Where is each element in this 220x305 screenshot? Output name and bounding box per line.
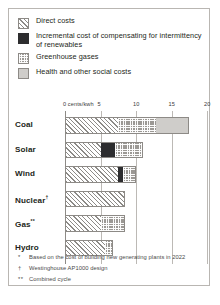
bar-track	[65, 191, 125, 208]
bar-row: Nuclear†	[9, 187, 211, 212]
footnote-marker: *	[18, 253, 29, 261]
footnote-row: ** Combined cycle	[18, 275, 204, 283]
footnote-text: Combined cycle	[29, 275, 71, 283]
bar-track	[65, 142, 143, 159]
legend-label-health-social-costs: Health and other social costs	[36, 68, 131, 77]
bar-category-label: Coal	[15, 120, 33, 129]
bar-segment	[65, 191, 125, 208]
bar-row: Solar	[9, 138, 211, 163]
bar-segment	[65, 166, 118, 183]
bar-segment	[101, 215, 126, 232]
bar-segment	[115, 142, 143, 159]
legend-swatch-greenhouse-gases-icon	[18, 53, 29, 64]
legend-swatch-intermittency-icon	[18, 33, 29, 44]
footnote-marker: **	[18, 275, 29, 283]
x-axis-tick-labels: 0 cents/kwh 5 10 15 20	[9, 101, 211, 113]
chart-plot-area: 0 cents/kwh 5 10 15 20 CoalSolarWindNucl…	[9, 101, 211, 253]
bar-track	[65, 215, 125, 232]
legend-swatch-health-social-costs-icon	[18, 68, 29, 79]
bar-category-label: Nuclear†	[15, 194, 48, 205]
footnote-text: Based on the cost of building new genera…	[29, 253, 185, 261]
legend-item-health-social-costs: Health and other social costs	[18, 68, 204, 80]
footnote-row: † Westinghouse AP1000 design	[18, 264, 204, 272]
bar-segment	[65, 142, 101, 159]
legend-label-intermittency: Incremental cost of compensating for int…	[36, 32, 204, 49]
bar-track	[65, 117, 189, 134]
bar-category-label: Hydro	[15, 243, 39, 252]
legend-item-intermittency: Incremental cost of compensating for int…	[18, 32, 204, 49]
chart-figure-frame: Direct costs Incremental cost of compens…	[8, 8, 210, 286]
chart-legend: Direct costs Incremental cost of compens…	[18, 17, 204, 83]
footnote-marker: †	[18, 264, 29, 272]
bar-segment	[123, 166, 136, 183]
footnote-text: Westinghouse AP1000 design	[29, 264, 108, 272]
bar-segment	[65, 215, 101, 232]
chart-bars: CoalSolarWindNuclear†Gas**Hydro	[9, 113, 211, 260]
bar-row: Coal	[9, 113, 211, 138]
x-axis-tick-10: 10	[133, 101, 139, 107]
bar-segment	[65, 117, 118, 134]
x-axis-tick-5: 5	[98, 101, 101, 107]
x-axis-tick-15: 15	[169, 101, 175, 107]
legend-item-direct-costs: Direct costs	[18, 17, 204, 29]
bar-track	[65, 166, 136, 183]
bar-row: Gas**	[9, 211, 211, 236]
chart-footnotes: * Based on the cost of building new gene…	[18, 253, 204, 287]
x-axis-origin-label: 0 cents/kwh	[63, 101, 94, 107]
bar-segment	[101, 142, 115, 159]
legend-item-greenhouse-gases: Greenhouse gases	[18, 53, 204, 65]
bar-category-label: Wind	[15, 169, 35, 178]
legend-label-greenhouse-gases: Greenhouse gases	[36, 53, 98, 62]
bar-category-label: Solar	[15, 145, 36, 154]
footnote-row: * Based on the cost of building new gene…	[18, 253, 204, 261]
legend-swatch-direct-costs-icon	[18, 18, 29, 29]
x-axis-tick-20: 20	[204, 101, 210, 107]
bar-row: Wind	[9, 162, 211, 187]
legend-label-direct-costs: Direct costs	[36, 17, 75, 26]
bar-category-label: Gas**	[15, 218, 35, 229]
bar-segment	[118, 117, 156, 134]
bar-segment	[156, 117, 189, 134]
